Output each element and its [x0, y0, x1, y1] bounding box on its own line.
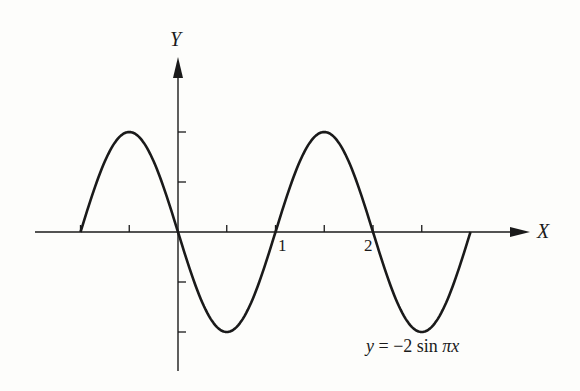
x-axis-label: X — [537, 220, 549, 243]
equation-pi: π — [442, 336, 451, 356]
equation-lhs: y — [366, 336, 374, 356]
equation-var: x — [451, 336, 459, 356]
y-axis-label: Y — [170, 28, 181, 51]
y-axis-arrow-icon — [173, 57, 183, 78]
x-tick-label-2: 2 — [364, 236, 373, 256]
x-axis-arrow-icon — [510, 227, 530, 237]
sine-plot — [0, 0, 580, 391]
equation-rhs: = −2 sin — [379, 336, 443, 356]
equation-label: y = −2 sin πx — [366, 336, 459, 357]
x-tick-label-1: 1 — [278, 236, 287, 256]
